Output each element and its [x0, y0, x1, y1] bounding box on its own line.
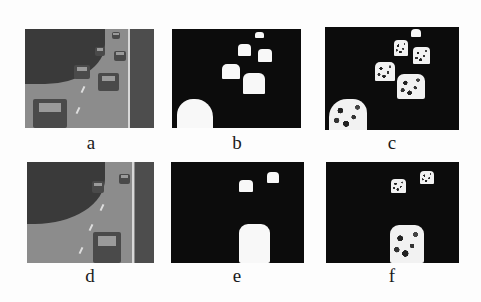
- vehicle-blob: [329, 99, 367, 130]
- car: [93, 232, 121, 263]
- vehicle-blob: [411, 29, 421, 37]
- panel-a-traffic-photo: [25, 29, 154, 128]
- roadside-barrier: [135, 162, 154, 263]
- panel-b-foreground-mask: [172, 29, 301, 128]
- roadside-barrier: [130, 29, 154, 128]
- vehicle-blob: [267, 172, 279, 183]
- panel-label-a: a: [76, 133, 106, 153]
- panel-label-c: c: [377, 133, 407, 153]
- vehicle-blob: [239, 224, 270, 263]
- car: [112, 32, 120, 39]
- car: [33, 99, 67, 128]
- panel-e-foreground-mask: [171, 162, 304, 263]
- car: [74, 65, 90, 79]
- panel-d-traffic-photo: [27, 162, 154, 263]
- vehicle-blob: [420, 171, 434, 184]
- car: [95, 47, 105, 56]
- vehicle-blob: [243, 73, 265, 94]
- car: [98, 73, 119, 91]
- car: [92, 181, 104, 193]
- vehicle-blob: [222, 64, 240, 79]
- car: [114, 51, 126, 61]
- vehicle-blob: [397, 74, 425, 99]
- vehicle-blob: [375, 62, 395, 81]
- vehicle-blob: [239, 180, 253, 192]
- panel-label-d: d: [75, 266, 105, 286]
- vehicle-blob: [390, 225, 424, 263]
- car: [119, 174, 130, 184]
- panel-label-e: e: [222, 266, 252, 286]
- panel-label-b: b: [222, 133, 252, 153]
- vehicle-blob: [238, 44, 251, 56]
- panel-c-detection-result: [325, 27, 459, 130]
- vehicle-blob: [177, 99, 213, 128]
- lane-edge-line: [132, 162, 134, 263]
- lane-edge-line: [128, 29, 130, 128]
- vehicle-blob: [413, 47, 430, 64]
- vehicle-blob: [258, 49, 272, 62]
- vehicle-blob: [391, 179, 406, 193]
- panel-label-f: f: [377, 266, 407, 286]
- vehicle-blob: [255, 32, 264, 38]
- vehicle-blob: [394, 40, 408, 56]
- panel-f-detection-result: [326, 162, 459, 263]
